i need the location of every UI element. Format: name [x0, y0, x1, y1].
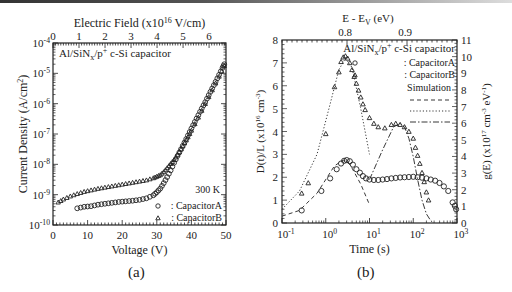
legend-capacitor-a: : CapacitorA — [404, 57, 456, 68]
y2-tick-label: 6 — [461, 117, 467, 129]
y-tick-label: 0 — [273, 217, 279, 229]
triangle-marker — [389, 122, 394, 126]
triangle-marker — [407, 129, 412, 133]
y-tick-label: 1 — [273, 194, 279, 206]
y-tick-label: 10-7 — [33, 127, 51, 140]
triangle-marker — [383, 126, 388, 130]
triangle-marker — [424, 190, 429, 194]
y2-tick-label: 0 — [461, 217, 467, 229]
y-tick-label: 2 — [273, 171, 279, 183]
triangle-marker — [411, 136, 416, 140]
triangle-marker — [358, 95, 363, 99]
circle-marker — [156, 204, 160, 208]
circle-marker — [353, 61, 357, 65]
chart-b-title: Al/SiNx/p+ c-Si capacitor — [343, 41, 455, 57]
top-x-tick-label: 0.9 — [398, 26, 412, 38]
circle-marker — [347, 159, 352, 164]
top-x-tick-label: 4 — [154, 30, 160, 42]
y-tick-label: 5 — [273, 103, 279, 115]
circle-marker — [350, 162, 355, 167]
triangle-marker — [363, 107, 368, 111]
top-x-axis-label: Electric Field (x1016 V/cm) — [74, 16, 205, 30]
triangle-marker — [337, 70, 342, 74]
triangle-marker — [299, 191, 304, 195]
series-CapacitorA — [299, 157, 459, 213]
x-axis-label: Voltage (V) — [111, 243, 167, 257]
triangle-marker — [156, 216, 160, 220]
top-x-tick-label: 6 — [206, 30, 212, 42]
y-tick-label: 10-10 — [29, 218, 50, 231]
top-x-tick-label: 5 — [180, 30, 186, 42]
y-tick-label: 8 — [273, 34, 279, 46]
y2-tick-label: 2 — [461, 184, 467, 196]
triangle-marker — [339, 59, 344, 63]
y-axis-label: Current Density (A/cm2) — [16, 75, 30, 194]
simulation-dashed-line — [282, 160, 370, 216]
x-tick-label: 30 — [151, 229, 163, 241]
circle-marker — [454, 207, 459, 212]
y2-tick-label: 5 — [461, 134, 467, 146]
triangle-marker — [418, 161, 423, 165]
x-axis-label: Time (s) — [349, 242, 390, 256]
triangle-marker — [361, 102, 366, 106]
y2-tick-label: 4 — [461, 150, 467, 162]
x-tick-label: 20 — [117, 229, 129, 241]
chart-a: 0102030405010-1010-910-810-710-610-510-4… — [16, 16, 232, 257]
y2-tick-label: 7 — [461, 101, 467, 113]
simulation-dash-dot-line — [370, 123, 434, 223]
top-x-tick-label: 1 — [76, 30, 82, 42]
circle-marker — [319, 188, 324, 193]
y-tick-label: 7 — [273, 57, 279, 69]
y-tick-label: 10-9 — [33, 188, 51, 201]
y2-tick-label: 10 — [461, 51, 473, 63]
legend-capacitor-a: : CapacitorA — [171, 200, 223, 211]
chart-a-title: Al/SiNx/p+ c-Si capacitor — [59, 46, 171, 62]
y2-tick-label: 11 — [461, 34, 472, 46]
x-tick-label: 10-1 — [277, 227, 295, 240]
temperature-annotation: 300 K — [195, 184, 221, 195]
circle-marker — [328, 176, 333, 181]
x-tick-label: 0 — [50, 229, 56, 241]
circle-marker — [441, 184, 446, 189]
triangle-marker — [413, 145, 418, 149]
legend-capacitor-b: : CapacitorB — [404, 69, 455, 80]
top-x-axis-label: E - EV (eV) — [342, 12, 394, 27]
legend-simulation: Simulation — [407, 82, 451, 93]
triangle-marker — [398, 122, 403, 126]
panel-b-label: (b) — [357, 264, 375, 281]
y2-axis-label: g(E) (x1017 cm-3 eV-1) — [480, 83, 493, 180]
y2-tick-label: 1 — [461, 200, 467, 212]
y2-tick-label: 9 — [461, 67, 467, 79]
x-tick-label: 101 — [366, 227, 381, 240]
top-x-tick-label: 0 — [50, 30, 56, 42]
circle-marker — [446, 188, 451, 193]
triangle-marker — [306, 181, 311, 185]
triangle-marker — [393, 121, 398, 125]
series-CapacitorB — [56, 64, 226, 204]
circle-marker — [357, 170, 362, 175]
y-tick-label: 10-6 — [33, 97, 51, 110]
legend-capacitor-b: : CapacitorB — [171, 212, 222, 223]
y-tick-label: 6 — [273, 80, 279, 92]
y-tick-label: 10-4 — [33, 36, 51, 49]
triangle-marker — [372, 121, 377, 125]
panel-a-label: (a) — [128, 264, 145, 281]
chart-b: 10-1100101102103012345678012345678910110… — [254, 12, 493, 256]
top-x-tick-label: 0.8 — [338, 26, 352, 38]
x-tick-label: 50 — [221, 229, 233, 241]
x-tick-label: 10 — [82, 229, 94, 241]
y-tick-label: 10-5 — [33, 66, 51, 79]
triangle-marker — [323, 131, 328, 135]
triangle-marker — [426, 198, 431, 202]
y-tick-label: 4 — [273, 126, 279, 138]
figure-canvas: 0102030405010-1010-910-810-710-610-510-4… — [0, 0, 512, 292]
circle-marker — [334, 167, 339, 172]
y-axis-label: D(t)/L (x1016 cm-3) — [254, 90, 267, 174]
x-tick-label: 100 — [322, 227, 337, 240]
y2-tick-label: 8 — [461, 84, 467, 96]
triangle-marker — [415, 153, 420, 157]
x-tick-label: 102 — [410, 227, 425, 240]
top-x-tick-label: 2 — [102, 30, 108, 42]
triangle-marker — [420, 170, 425, 174]
triangle-marker — [367, 115, 372, 119]
